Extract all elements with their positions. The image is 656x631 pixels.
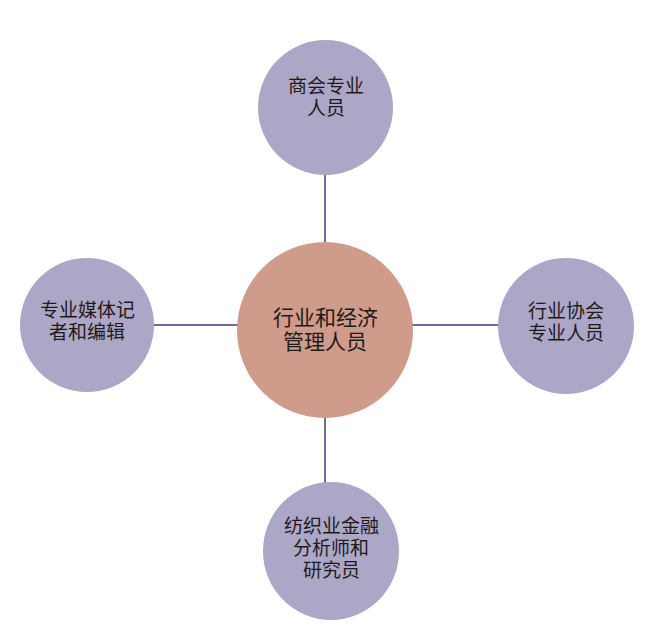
node-chamber-of-commerce-staff: 商会专业 人员 — [258, 40, 393, 175]
connector-top — [324, 172, 326, 246]
node-label: 行业协会 专业人员 — [528, 300, 604, 344]
node-industry-association-staff: 行业协会 专业人员 — [498, 258, 634, 394]
connector-left — [150, 324, 240, 326]
connector-bottom — [324, 410, 326, 484]
node-label: 商会专业 人员 — [288, 75, 364, 119]
node-industry-economic-managers: 行业和经济 管理人员 — [237, 242, 413, 418]
node-textile-finance-analysts: 纺织业金融 分析师和 研究员 — [263, 482, 399, 620]
connector-right — [410, 324, 502, 326]
node-media-journalists-editors: 专业媒体记 者和编辑 — [20, 258, 154, 392]
node-label: 行业和经济 管理人员 — [273, 306, 378, 354]
node-label: 纺织业金融 分析师和 研究员 — [284, 515, 379, 581]
node-label: 专业媒体记 者和编辑 — [40, 299, 135, 343]
hub-spoke-diagram: 商会专业 人员 专业媒体记 者和编辑 行业和经济 管理人员 行业协会 专业人员 … — [0, 0, 656, 631]
